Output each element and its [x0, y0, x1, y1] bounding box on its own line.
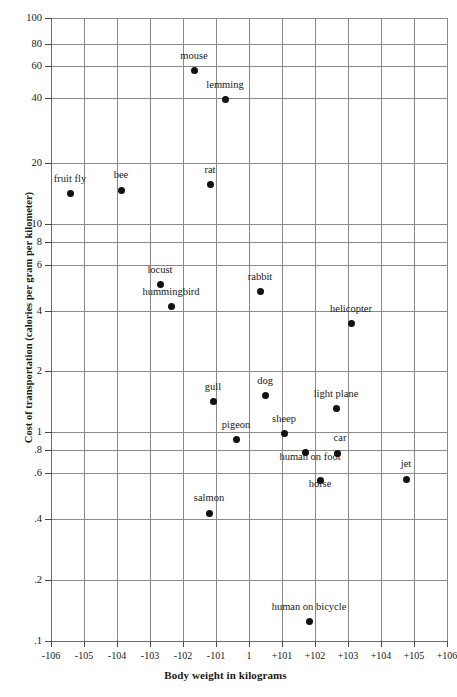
x-gridline — [381, 18, 382, 641]
y-gridline — [51, 163, 447, 164]
x-axis-tick — [381, 641, 382, 647]
x-axis-tick-label: +103 — [338, 650, 359, 661]
y-axis-tick-label: 40 — [32, 92, 43, 103]
data-point — [281, 430, 288, 437]
data-point-label: helicopter — [330, 303, 372, 314]
data-point-label: horse — [309, 478, 332, 489]
y-axis-tick — [45, 265, 52, 266]
data-point — [206, 510, 213, 517]
y-axis-tick-label: .4 — [34, 513, 42, 524]
x-axis-tick-label: 1 — [247, 650, 252, 661]
y-axis-tick-label: 4 — [37, 305, 42, 316]
data-point-label: human on foot — [279, 451, 340, 462]
x-axis-tick-label: +102 — [305, 650, 326, 661]
data-point — [168, 303, 175, 310]
y-gridline — [51, 450, 447, 451]
y-axis-tick — [45, 641, 52, 642]
y-axis-title: Cost of transportation (calories per gra… — [23, 168, 34, 468]
y-axis-tick — [45, 18, 52, 19]
data-point-label: jet — [401, 458, 412, 469]
y-gridline — [51, 224, 447, 225]
x-axis-tick — [414, 641, 415, 647]
y-axis-tick — [45, 242, 52, 243]
x-axis-tick — [315, 641, 316, 647]
x-gridline — [249, 18, 250, 641]
x-gridline — [282, 18, 283, 641]
x-axis-tick — [84, 641, 85, 647]
x-axis-tick — [249, 641, 250, 647]
x-axis-tick-label: -106 — [42, 650, 60, 661]
y-axis-tick — [45, 44, 52, 45]
y-axis-tick-label: 2 — [37, 365, 42, 376]
x-axis-tick-label: +104 — [371, 650, 392, 661]
y-axis-tick — [45, 224, 52, 225]
data-point-label: gull — [205, 381, 221, 392]
y-gridline — [51, 242, 447, 243]
y-axis-spine — [51, 18, 52, 641]
y-gridline — [51, 519, 447, 520]
y-gridline — [51, 98, 447, 99]
data-point — [191, 67, 198, 74]
data-point — [257, 288, 264, 295]
data-point — [207, 181, 214, 188]
x-axis-tick — [348, 641, 349, 647]
y-gridline — [51, 311, 447, 312]
data-point-label: light plane — [314, 388, 359, 399]
data-point — [118, 187, 125, 194]
x-axis-tick — [216, 641, 217, 647]
x-axis-tick — [117, 641, 118, 647]
x-gridline — [315, 18, 316, 641]
y-gridline — [51, 265, 447, 266]
x-gridline — [150, 18, 151, 641]
data-point — [67, 190, 74, 197]
x-gridline — [117, 18, 118, 641]
data-point — [333, 405, 340, 412]
data-point-label: locust — [147, 264, 172, 275]
x-axis-tick-label: -105 — [75, 650, 93, 661]
data-point-label: car — [334, 432, 347, 443]
x-axis-tick-label: +105 — [404, 650, 425, 661]
data-point-label: mouse — [180, 50, 207, 61]
y-gridline — [51, 473, 447, 474]
x-gridline — [348, 18, 349, 641]
y-gridline — [51, 580, 447, 581]
data-point — [210, 398, 217, 405]
data-point — [403, 476, 410, 483]
y-axis-tick-label: 100 — [26, 12, 42, 23]
y-axis-tick — [45, 473, 52, 474]
y-axis-tick — [45, 580, 52, 581]
data-point-label: fruit fly — [54, 173, 86, 184]
data-point — [233, 436, 240, 443]
y-axis-tick — [45, 432, 52, 433]
data-point-label: bee — [114, 169, 129, 180]
data-point-label: human on bicycle — [272, 601, 347, 612]
y-axis-tick-label: 60 — [32, 60, 43, 71]
x-axis-tick-label: -103 — [141, 650, 159, 661]
x-gridline — [216, 18, 217, 641]
y-axis-tick — [45, 98, 52, 99]
y-axis-tick-label: 20 — [32, 157, 43, 168]
y-axis-tick-label: 1 — [37, 426, 42, 437]
y-axis-tick-label: .1 — [34, 635, 42, 646]
x-gridline — [183, 18, 184, 641]
y-axis-tick — [45, 311, 52, 312]
x-axis-tick — [183, 641, 184, 647]
y-axis-tick-label: .2 — [34, 574, 42, 585]
data-point-label: rat — [204, 164, 215, 175]
y-gridline — [51, 371, 447, 372]
x-axis-tick-label: +106 — [437, 650, 457, 661]
y-axis-tick-label: .6 — [34, 467, 42, 478]
data-point-label: salmon — [194, 492, 224, 503]
y-axis-tick — [45, 371, 52, 372]
data-point-label: pigeon — [222, 419, 251, 430]
data-point-label: lemming — [206, 79, 243, 90]
x-axis-tick-label: -102 — [174, 650, 192, 661]
y-axis-tick — [45, 66, 52, 67]
data-point-label: dog — [257, 375, 273, 386]
y-axis-tick-label: 80 — [32, 38, 43, 49]
y-gridline — [51, 44, 447, 45]
x-gridline — [84, 18, 85, 641]
x-gridline — [414, 18, 415, 641]
data-point-label: rabbit — [248, 271, 273, 282]
